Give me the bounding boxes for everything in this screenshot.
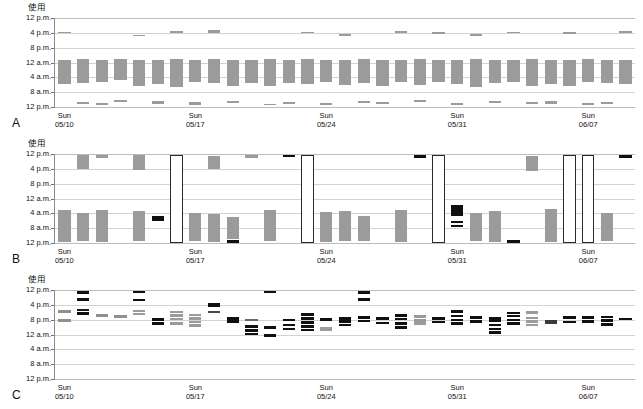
y-tick-label: 12 p.m. — [26, 150, 51, 158]
top-mark — [358, 291, 370, 294]
late-mark — [601, 102, 613, 104]
x-tick-label: Sun06/07 — [565, 247, 611, 265]
open-blocks — [563, 155, 575, 243]
y-tick-mark — [51, 63, 54, 64]
fragment-stripe — [376, 317, 388, 320]
y-tick-mark — [51, 92, 54, 93]
nap-mark — [339, 34, 351, 36]
open-blocks — [301, 155, 313, 243]
sleep-block — [245, 60, 257, 84]
top-mark — [264, 291, 276, 294]
y-tick-label: 4 a.m. — [30, 73, 51, 81]
black-blocks — [507, 240, 519, 243]
sleep-block — [58, 60, 70, 84]
fragment-stripe — [507, 322, 519, 325]
x-tick-date: 05/31 — [434, 392, 480, 401]
x-tick-label: Sun05/17 — [172, 111, 218, 129]
gridline — [55, 243, 635, 244]
y-tick-label: 12 p.m. — [26, 239, 51, 247]
x-tick-day: Sun — [303, 247, 349, 256]
plot-area — [55, 18, 635, 108]
late-mark — [283, 102, 295, 104]
fragment-stripe — [301, 321, 313, 324]
late-mark — [189, 102, 201, 104]
fragment-stripe — [432, 317, 444, 320]
sleep-block — [208, 59, 220, 83]
fragment-stripe — [339, 317, 351, 320]
y-tick-label: 12 p.m. — [26, 14, 51, 22]
x-tick-label: Sun05/17 — [172, 247, 218, 265]
x-tick-day: Sun — [565, 383, 611, 392]
fragment-stripe — [601, 316, 613, 319]
x-tick-date: 05/31 — [434, 256, 480, 265]
fragment-stripe — [414, 319, 426, 322]
y-tick-mark — [51, 349, 54, 350]
fragment-stripe — [563, 316, 575, 319]
y-tick-mark — [51, 33, 54, 34]
gray-blocks — [77, 213, 89, 242]
y-tick-mark — [51, 290, 54, 291]
x-tick-label: Sun06/07 — [565, 383, 611, 401]
sleep-block — [189, 60, 201, 82]
open-blocks — [582, 155, 594, 243]
gray-blocks — [133, 155, 145, 170]
sleep-block — [283, 60, 295, 83]
fragment-stripe — [601, 323, 613, 326]
sleep-block — [358, 59, 370, 83]
late-mark — [451, 103, 463, 105]
fragment-stripe — [58, 319, 70, 323]
fragment-stripe — [451, 310, 463, 313]
fragment-stripe — [545, 320, 557, 324]
fragment-stripe — [245, 333, 257, 336]
y-tick-label: 8 p.m. — [30, 44, 51, 52]
panel-title: 使用 — [28, 139, 46, 148]
fragment-stripe — [208, 311, 220, 313]
gray-blocks — [77, 155, 89, 169]
fragment-stripe — [489, 328, 501, 331]
y-tick-label: 12 p.m. — [26, 286, 51, 294]
open-blocks — [432, 155, 444, 243]
sleep-block — [414, 59, 426, 85]
y-tick-mark — [51, 107, 54, 108]
fragment-stripe — [77, 298, 89, 301]
y-tick-mark — [51, 305, 54, 306]
fragment-stripe — [507, 319, 519, 321]
fragment-stripe — [489, 317, 501, 321]
black-blocks — [414, 155, 426, 158]
panel-letter: C — [12, 389, 21, 401]
fragment-stripe — [451, 319, 463, 322]
y-tick-mark — [51, 169, 54, 170]
fragment-stripe — [470, 320, 482, 323]
fragment-stripe — [489, 331, 501, 334]
black-blocks — [152, 216, 164, 221]
y-tick-mark — [51, 243, 54, 244]
fragment-stripe — [320, 327, 332, 331]
y-tick-label: 12 p.m. — [26, 103, 51, 111]
y-tick-label: 12 a.m. — [26, 331, 51, 339]
fragment-stripe — [619, 318, 631, 321]
y-tick-mark — [51, 320, 54, 321]
sleep-block — [77, 59, 89, 82]
y-tick-label: 8 a.m. — [30, 88, 51, 96]
y-tick-label: 12 p.m. — [26, 375, 51, 383]
late-mark — [227, 101, 239, 103]
y-tick-mark — [51, 184, 54, 185]
panel-c: 使用C12 p.m.4 p.m.8 p.m.12 a.m.4 a.m.8 a.m… — [0, 272, 643, 408]
gray-blocks — [58, 210, 70, 242]
y-tick-mark — [51, 335, 54, 336]
late-mark — [414, 100, 426, 102]
sleep-block — [470, 59, 482, 87]
y-tick-label: 4 a.m. — [30, 209, 51, 217]
black-blocks — [227, 240, 239, 242]
fragment-stripe — [245, 325, 257, 328]
x-tick-date: 05/31 — [434, 120, 480, 129]
x-tick-day: Sun — [565, 247, 611, 256]
y-tick-label: 8 p.m. — [30, 180, 51, 188]
sleep-block — [264, 59, 276, 85]
fragment-stripe — [114, 315, 126, 318]
fragment-stripe — [189, 324, 201, 327]
late-mark — [152, 101, 164, 103]
gridline — [55, 379, 635, 380]
x-tick-day: Sun — [303, 383, 349, 392]
top-mark — [133, 291, 145, 293]
